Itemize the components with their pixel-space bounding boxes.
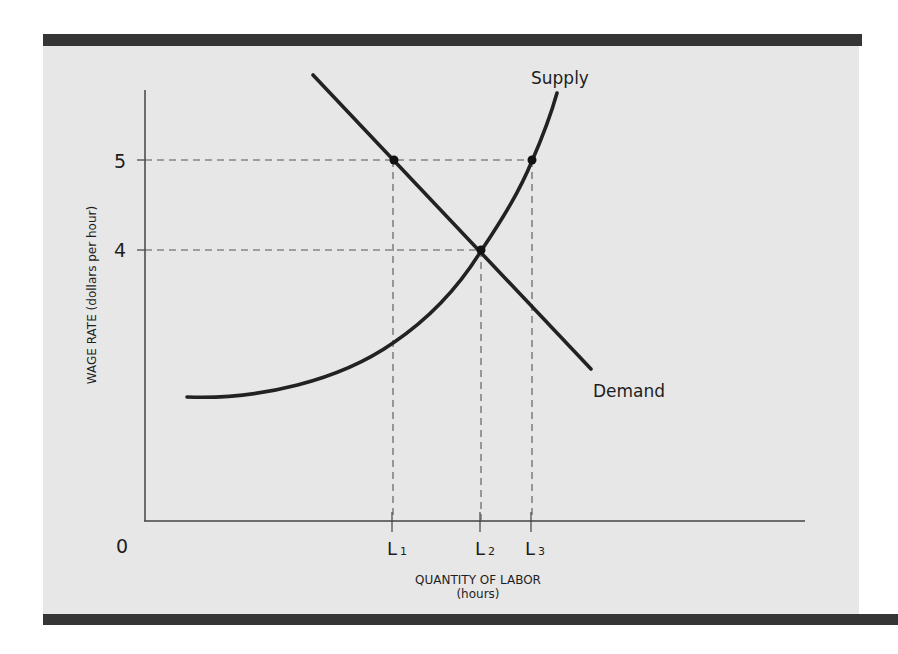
y-axis-title: WAGE RATE (dollars per hour) bbox=[85, 206, 99, 384]
y-tick-label-5: 5 bbox=[114, 150, 126, 172]
labor-market-chart: Supply Demand 5 4 0 L1 L2 L3 QUANTITY OF… bbox=[0, 0, 898, 654]
y-tick-label-4: 4 bbox=[114, 239, 126, 261]
x-tick-label-L1: L1 bbox=[387, 538, 407, 559]
point-supply-wage5 bbox=[528, 156, 537, 165]
supply-label: Supply bbox=[531, 68, 589, 88]
point-demand-wage5 bbox=[390, 156, 399, 165]
x-axis-title: QUANTITY OF LABOR bbox=[415, 573, 541, 587]
x-tick-label-L3: L3 bbox=[525, 538, 545, 559]
x-tick-label-L2: L2 bbox=[475, 538, 495, 559]
origin-label: 0 bbox=[116, 535, 128, 557]
x-axis-subtitle: (hours) bbox=[456, 587, 499, 601]
demand-label: Demand bbox=[593, 381, 665, 401]
point-equilibrium bbox=[477, 246, 486, 255]
